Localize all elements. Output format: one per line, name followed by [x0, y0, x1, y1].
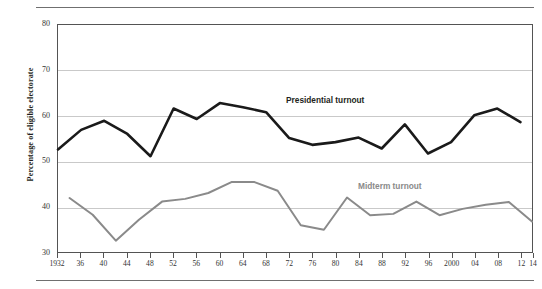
x-tick-mark — [498, 253, 499, 258]
x-tick-mark — [452, 253, 453, 258]
y-tick-label: 60 — [26, 112, 50, 120]
y-tick-label: 40 — [26, 203, 50, 211]
x-tick-mark — [312, 253, 313, 258]
y-tick-label: 50 — [26, 157, 50, 165]
x-tick-mark — [173, 253, 174, 258]
y-axis-tick-labels: 80 70 60 50 40 30 — [22, 0, 50, 289]
data-series-layer — [58, 25, 532, 252]
top-divider-rule — [36, 7, 534, 8]
x-tick-mark — [220, 253, 221, 258]
x-tick-label: 12 — [518, 260, 526, 268]
x-tick-mark — [80, 253, 81, 258]
x-axis: 1932364044485256606468727680848892962000… — [57, 253, 533, 283]
x-tick-mark — [475, 253, 476, 258]
x-tick-mark — [196, 253, 197, 258]
plot-area: Presidential turnout Midterm turnout — [57, 24, 533, 253]
x-tick-mark — [103, 253, 104, 258]
series-label-midterm: Midterm turnout — [358, 181, 422, 191]
y-tick-label: 30 — [26, 249, 50, 257]
x-tick-mark — [359, 253, 360, 258]
x-tick-label: 60 — [216, 260, 224, 268]
x-tick-label: 14 — [529, 260, 537, 268]
x-tick-label: 80 — [332, 260, 340, 268]
x-tick-label: 96 — [425, 260, 433, 268]
x-tick-mark — [429, 253, 430, 258]
x-tick-label: 52 — [169, 260, 177, 268]
x-tick-mark — [243, 253, 244, 258]
x-tick-label: 56 — [193, 260, 201, 268]
x-tick-label: 84 — [355, 260, 363, 268]
y-tick-label: 80 — [26, 20, 50, 28]
x-tick-label: 1932 — [49, 260, 64, 268]
x-tick-label: 48 — [146, 260, 154, 268]
x-tick-label: 92 — [402, 260, 410, 268]
x-tick-label: 40 — [100, 260, 108, 268]
x-tick-label: 08 — [494, 260, 502, 268]
y-tick-label: 70 — [26, 66, 50, 74]
x-tick-mark — [336, 253, 337, 258]
x-tick-label: 44 — [123, 260, 131, 268]
x-tick-mark — [533, 253, 534, 258]
x-tick-mark — [266, 253, 267, 258]
x-tick-label: 88 — [378, 260, 386, 268]
x-tick-mark — [521, 253, 522, 258]
x-tick-label: 36 — [76, 260, 84, 268]
x-tick-label: 76 — [309, 260, 317, 268]
series-label-presidential: Presidential turnout — [286, 95, 364, 105]
bottom-divider-rule — [36, 280, 534, 281]
x-tick-mark — [57, 253, 58, 258]
x-tick-mark — [150, 253, 151, 258]
chart-figure: Percentage of eligible electorate 80 70 … — [0, 0, 542, 289]
x-tick-label: 2000 — [444, 260, 459, 268]
x-tick-label: 04 — [471, 260, 479, 268]
x-tick-mark — [382, 253, 383, 258]
x-tick-mark — [289, 253, 290, 258]
x-tick-mark — [405, 253, 406, 258]
line-presidential-turnout — [58, 103, 520, 156]
x-tick-label: 68 — [262, 260, 270, 268]
x-tick-mark — [127, 253, 128, 258]
x-tick-label: 64 — [239, 260, 247, 268]
line-midterm-turnout — [70, 182, 532, 241]
x-tick-label: 72 — [285, 260, 293, 268]
